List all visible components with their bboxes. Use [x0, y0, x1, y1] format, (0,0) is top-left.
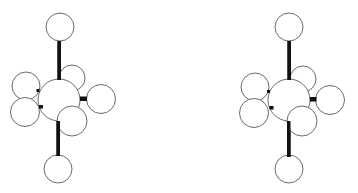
atom-bottom: [44, 155, 72, 183]
atom-lower-left: [240, 99, 269, 128]
bond-right-bond: [310, 97, 317, 102]
atom-upper-left: [12, 72, 40, 100]
atom-right: [316, 86, 345, 115]
molecule-canvas: [0, 0, 358, 193]
bond-left-upper-stub: [37, 89, 40, 92]
bond-top-bond: [288, 41, 292, 80]
atom-bottom: [275, 155, 303, 183]
atom-top: [46, 13, 74, 41]
bond-bottom-bond: [57, 121, 61, 156]
right-stereo-view: [240, 13, 345, 183]
bond-top-bond: [58, 41, 62, 80]
atom-lower-right: [287, 106, 317, 136]
bond-left-lower-stub: [39, 105, 43, 109]
bond-left-lower-stub: [270, 106, 274, 110]
atom-lower-right: [57, 106, 87, 136]
left-stereo-view: [11, 13, 116, 183]
atom-top: [275, 13, 303, 41]
bond-left-upper-stub: [267, 90, 270, 93]
bond-right-bond: [80, 97, 87, 102]
bond-bottom-bond: [287, 121, 291, 157]
atom-lower-left: [11, 98, 40, 127]
atom-upper-left: [241, 73, 269, 101]
atom-right: [87, 85, 116, 114]
stereo-molecule-figure: [0, 0, 358, 193]
